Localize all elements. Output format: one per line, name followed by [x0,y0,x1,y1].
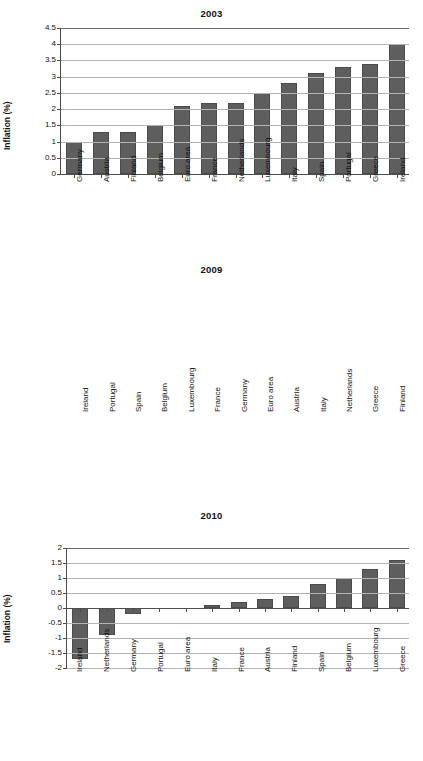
y-tick-mark [57,77,61,78]
y-tick-mark [57,93,61,94]
x-axis-category-label: Italy [211,657,219,672]
x-axis-category-label: Finland [291,646,299,672]
y-tick-mark [57,142,61,143]
y-axis-label-2003: Inflation (%) [2,101,12,150]
x-axis-category-label: Euro area [184,637,192,672]
gridline [61,142,409,143]
chart-panel-2003: 2003 Inflation (%) 00.511.522.533.544.5 [0,0,423,258]
x-axis-category-label: Germany [76,149,84,182]
x-axis-category-label: Ireland [82,388,90,412]
x-axis-category-label: Portugal [109,382,117,412]
x-axis-category-label: Euro area [267,377,275,412]
x-axis-category-label: Italy [291,167,299,182]
y-tick-label: 0 [52,170,56,178]
y-tick-label: 2.5 [45,89,56,97]
gridline [61,125,409,126]
y-tick-label: 3.5 [45,56,56,64]
x-axis-category-label: Spain [135,392,143,412]
y-tick-mark [57,158,61,159]
figure-three-bar-charts: 2003 Inflation (%) 00.511.522.533.544.5 … [0,0,423,761]
bar [308,73,324,174]
gridline [61,44,409,45]
x-axis-category-label: Austria [293,387,301,412]
x-axis-category-label: Netherlands [238,139,246,182]
x-axis-category-label: Euro area [184,147,192,182]
gridline [61,93,409,94]
x-axis-category-label: Netherlands [103,629,111,672]
x-axis-category-label: Portugal [345,152,353,182]
gridline [61,77,409,78]
x-axis-category-label: Ireland [399,158,407,182]
chart-panel-2010: 2010 Inflation (%) -2-10123456 [0,504,423,754]
x-axis-category-label: Ireland [76,648,84,672]
chart-title-2009: 2009 [0,264,423,275]
x-axis-category-label: Luxembourg [188,368,196,412]
bars-2003 [61,28,409,174]
x-axis-category-label: Luxembourg [372,628,380,672]
x-axis-category-label: France [238,647,246,672]
y-tick-label: 1.5 [45,121,56,129]
y-tick-mark [57,174,61,175]
x-axis-category-label: Finland [399,386,407,412]
x-axis-category-label: Spain [318,162,326,182]
x-axis-category-label: Italy [320,397,328,412]
y-tick-mark [57,44,61,45]
plot-area-2003: 00.511.522.533.544.5 [60,28,409,174]
y-tick-label: 0.5 [45,154,56,162]
x-axis-category-label: Belgium [157,153,165,182]
y-tick-label: 3 [52,73,56,81]
x-axis-category-label: Greece [399,646,407,672]
gridline [61,158,409,159]
x-axis-category-label: Netherlands [346,369,354,412]
y-tick-mark [57,109,61,110]
x-axis-category-label: France [214,387,222,412]
x-axis-category-label: Belgium [345,643,353,672]
y-tick-label: 4 [52,40,56,48]
x-axis-category-label: Germany [130,639,138,672]
chart-title-2003: 2003 [0,8,423,19]
gridline [61,109,409,110]
x-axis-category-label: France [211,157,219,182]
x-axis-category-label: Austria [103,157,111,182]
chart-title-2010: 2010 [0,510,423,521]
y-tick-label: 4.5 [45,24,56,32]
gridline [61,60,409,61]
x-axis-category-label: Spain [318,652,326,672]
x-axis-category-label: Greece [372,386,380,412]
x-axis-category-label: Austria [264,647,272,672]
y-tick-mark [57,125,61,126]
bar [281,83,297,174]
chart-panel-2009: 2009 Inflation (%) -2-1.5-1-0.500.511.52 [0,258,423,504]
x-axis-category-label: Greece [372,156,380,182]
x-axis-category-label: Belgium [161,383,169,412]
y-tick-mark [57,28,61,29]
y-tick-label: 2 [52,105,56,113]
x-axis-category-label: Germany [241,379,249,412]
x-axis-category-label: Portugal [157,642,165,672]
y-tick-label: 1 [52,138,56,146]
x-axis-category-label: Finland [130,156,138,182]
y-tick-mark [57,60,61,61]
x-axis-category-label: Luxembourg [264,138,272,182]
gridline [61,28,409,29]
